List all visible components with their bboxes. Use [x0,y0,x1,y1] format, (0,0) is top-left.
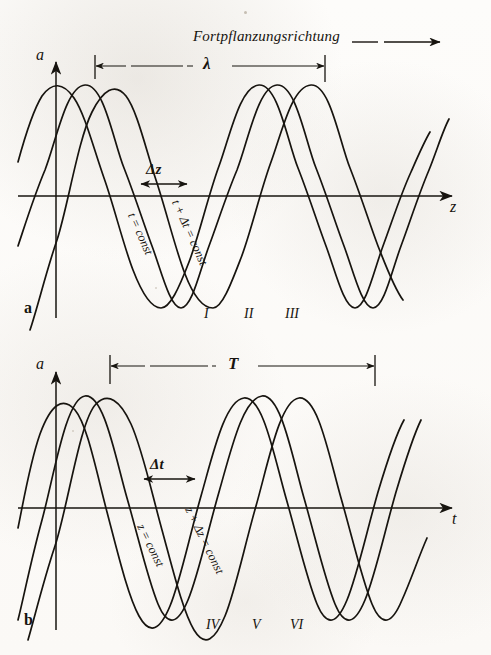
panel-a-marker-iii: III [285,307,299,321]
panel-b-waves [18,396,427,640]
panel-a-waves [18,85,449,330]
scan-speck [244,11,247,14]
panel-a-delta-z-label: Δz [146,162,161,177]
figure-canvas [0,0,491,655]
panel-b-marker-v: V [252,618,261,632]
panel-b-marker-iv: IV [206,618,219,632]
panel-b-plot [18,355,452,640]
panel-b-y-axis-label: a [36,356,44,372]
panel-a-x-axis-label: z [450,199,456,215]
panel-b-period-label: T [228,355,238,372]
panel-b-axes [18,372,452,630]
panel-a-marker-ii: II [244,307,253,321]
panel-a-y-axis-label: a [36,47,44,63]
panel-b-marker-vi: VI [290,618,303,632]
panel-b-wave-3 [28,398,427,640]
panel-b-wave-2 [18,398,404,628]
scan-speck [155,287,157,289]
scan-speck [72,430,74,432]
figure-wave-propagation: Fortpflanzungsrichtung a z λ Δz t = cons… [0,0,491,655]
panel-a-wavelength-label: λ [203,55,211,72]
panel-a-marker-i: I [204,307,209,321]
propagation-direction-label: Fortpflanzungsrichtung [193,29,340,44]
panel-a-plot [18,42,452,330]
panel-a-letter: a [24,300,32,316]
panel-b-letter: b [24,612,33,628]
panel-b-x-axis-label: t [452,511,456,527]
panel-b-delta-t-label: Δt [150,457,164,472]
panel-b-period-dimension [110,355,375,386]
panel-a-axes [18,62,452,318]
